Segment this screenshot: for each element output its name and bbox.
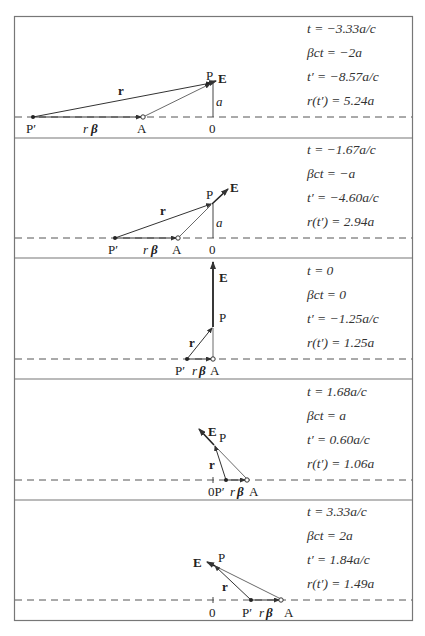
label-a-point: A [249,484,259,499]
a-dot [279,598,283,602]
label-e: E [219,270,228,285]
label-origin-p-prime: 0P′ [208,484,225,499]
eq-r-t-prime: r(t′) = 5.24a [307,93,374,108]
label-r-vec: r [118,83,124,98]
label-beta: β [90,121,98,136]
label-p: P [219,430,226,445]
label-r: r [143,242,149,257]
eq-beta-ct: βct = −2a [306,45,362,60]
eq-t-prime: t′ = −8.57a/c [307,69,379,84]
r-vector [215,566,251,600]
label-r-vec: r [222,579,228,594]
p-prime-dot [31,115,35,119]
e-vector [207,562,215,566]
p-prime-dot [113,236,117,240]
a-dot [176,236,180,240]
label-a-point: A [284,605,294,620]
label-p: P [218,550,225,565]
eq-t: t = 1.68a/c [307,384,367,399]
panel-2: P′ r β A 0 P E r a t = −1.67a/c βct = −a… [15,142,412,257]
eq-t-prime: t′ = −4.60a/c [307,190,379,205]
p-prime-dot [224,478,228,482]
label-e: E [208,424,217,439]
label-p: P [206,187,213,202]
e-vector [212,189,228,204]
label-beta: β [236,484,244,499]
eq-beta-ct: βct = 0 [306,287,346,302]
eq-t-prime: t′ = 1.84a/c [307,552,370,567]
eq-t-prime: t′ = 0.60a/c [307,432,370,447]
eq-beta-ct: βct = a [306,408,346,423]
label-origin: 0 [209,242,216,257]
eq-t: t = 0 [307,263,334,278]
label-p: P [219,310,226,325]
label-p-prime: P′ [242,605,252,620]
label-p-prime: P′ [108,242,118,257]
label-a: a [216,94,223,109]
label-beta: β [150,242,158,257]
label-a-point: A [137,121,147,136]
eq-r-t-prime: r(t′) = 1.49a [307,576,374,591]
label-r-vec: r [189,335,195,350]
eq-t: t = −3.33a/c [307,21,376,36]
eq-beta-ct: βct = −a [306,166,355,181]
label-a-point: A [210,363,220,378]
a-to-p-line [145,84,210,116]
panel-5: 0 P′ r β A P E r t = 3.33a/c βct = 2a t′… [15,504,412,620]
eq-t-prime: t′ = −1.25a/c [307,311,379,326]
label-e: E [230,180,239,195]
field-diagram: P′ r β A 0 P E r a t = −3.33a/c βct = −2… [0,0,425,636]
panel-1: P′ r β A 0 P E r a t = −3.33a/c βct = −2… [15,21,412,136]
label-r: r [259,605,265,620]
label-e: E [193,555,202,570]
p-prime-dot [249,598,253,602]
a-dot [141,115,145,119]
a-dot [245,478,249,482]
panel-4: 0P′ r β A P E r t = 1.68a/c βct = a t′ =… [15,384,412,499]
label-r: r [83,121,89,136]
label-r: r [230,484,236,499]
label-r-vec: r [209,457,215,472]
eq-t: t = 3.33a/c [307,504,367,519]
label-p: P [206,68,213,83]
label-r: r [192,363,198,378]
eq-beta-ct: βct = 2a [306,528,353,543]
label-r-vec: r [160,203,166,218]
a-to-p-line [215,446,247,479]
label-a-point: A [172,242,182,257]
eq-r-t-prime: r(t′) = 1.25a [307,335,374,350]
label-beta: β [198,363,206,378]
eq-t: t = −1.67a/c [307,142,376,157]
p-prime-dot [185,357,189,361]
label-beta: β [265,605,273,620]
eq-r-t-prime: r(t′) = 2.94a [307,214,374,229]
eq-r-t-prime: r(t′) = 1.06a [307,456,374,471]
label-origin: 0 [209,121,216,136]
label-origin: 0 [209,605,216,620]
label-p-prime: P′ [26,121,36,136]
a-dot [211,357,215,361]
label-e: E [218,71,227,86]
label-a: a [216,215,223,230]
panel-3: P′ r β A P E r t = 0 βct = 0 t′ = −1.25a… [15,262,412,378]
label-p-prime: P′ [175,363,185,378]
